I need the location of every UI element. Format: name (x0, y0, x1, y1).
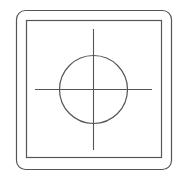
reticle-svg (0, 0, 184, 178)
reticle-diagram (0, 0, 184, 178)
